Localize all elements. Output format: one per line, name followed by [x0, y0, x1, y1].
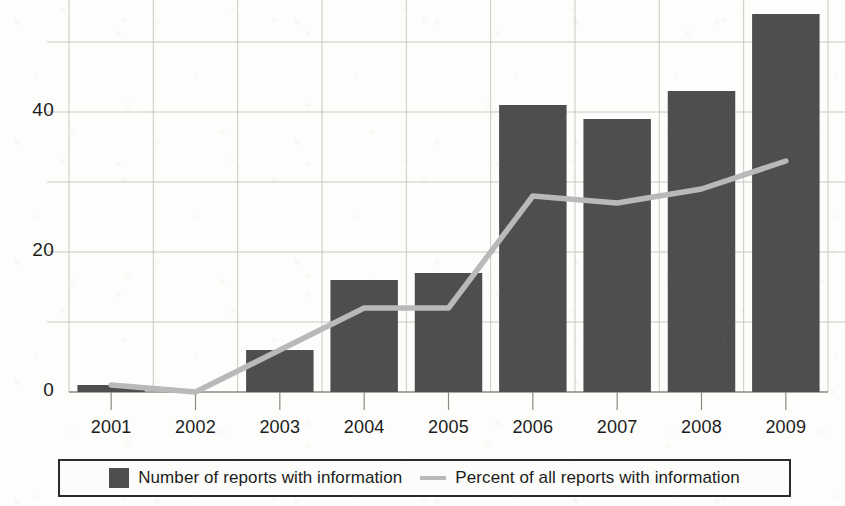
x-axis-ticks — [111, 392, 786, 410]
bar-2004 — [330, 280, 397, 392]
x-axis-label-2006: 2006 — [491, 417, 575, 438]
x-axis-label-2002: 2002 — [154, 417, 238, 438]
bar-2008 — [668, 91, 735, 392]
bar-2007 — [583, 119, 650, 392]
bar-2006 — [499, 105, 566, 392]
bar-swatch-icon — [109, 468, 129, 488]
y-axis-label-40: 40 — [10, 99, 54, 121]
bar-2003 — [246, 350, 313, 392]
y-axis-label-0: 0 — [10, 379, 54, 401]
legend-entry-line: Percent of all reports with information — [420, 468, 740, 488]
x-axis-label-2007: 2007 — [575, 417, 659, 438]
bar-2005 — [415, 273, 482, 392]
bar-series — [77, 14, 819, 392]
x-axis-label-2004: 2004 — [322, 417, 406, 438]
x-axis-label-2005: 2005 — [407, 417, 491, 438]
legend-label-line: Percent of all reports with information — [455, 468, 740, 488]
bar-2009 — [752, 14, 819, 392]
legend-label-bars: Number of reports with information — [138, 468, 402, 488]
chart-legend: Number of reports with information Perce… — [58, 459, 791, 497]
combo-bar-line-chart: 02040 2001200220032004200520062007200820… — [0, 0, 845, 506]
y-axis-label-20: 20 — [10, 239, 54, 261]
x-axis-label-2008: 2008 — [660, 417, 744, 438]
line-swatch-icon — [420, 476, 446, 480]
x-axis-label-2001: 2001 — [69, 417, 153, 438]
x-axis-label-2009: 2009 — [744, 417, 828, 438]
legend-entry-bars: Number of reports with information — [109, 468, 402, 488]
x-axis-label-2003: 2003 — [238, 417, 322, 438]
